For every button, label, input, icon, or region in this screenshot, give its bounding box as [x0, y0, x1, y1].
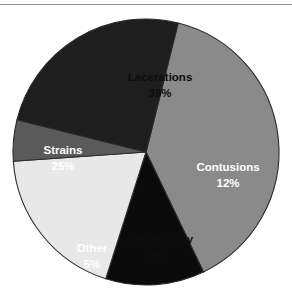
pie-slice-value: 19%	[144, 249, 167, 261]
pie-slice-name: Lacerations	[128, 71, 193, 83]
pie-slice-name: Strains	[44, 144, 83, 156]
pie-chart: Lacerations39%Contusions12%Foreign Body1…	[0, 0, 292, 302]
pie-slice-name: Foreign Body	[119, 233, 194, 245]
pie-slice-name: Contusions	[196, 161, 259, 173]
pie-slice-value: 12%	[216, 177, 239, 189]
pie-slice-value: 25%	[51, 160, 74, 172]
pie-slice-name: Other	[77, 242, 108, 254]
pie-slice-value: 39%	[148, 87, 171, 99]
pie-chart-figure: Lacerations39%Contusions12%Foreign Body1…	[0, 0, 292, 302]
pie-slice-value: 5%	[84, 258, 101, 270]
